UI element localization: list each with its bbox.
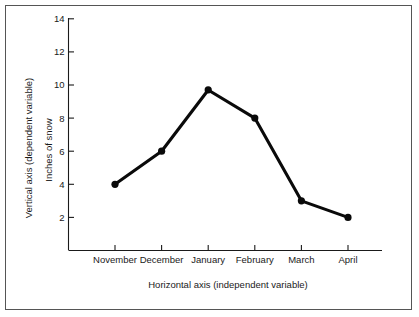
y-tick-label: 14 (54, 13, 65, 24)
data-point-january (205, 86, 212, 93)
figure-container: 2468101214 NovemberDecemberJanuaryFebrua… (0, 0, 419, 317)
line-chart: 2468101214 NovemberDecemberJanuaryFebrua… (0, 0, 419, 317)
data-point-december (158, 148, 165, 155)
data-point-group (111, 86, 351, 221)
y-axis-label-inner: Inches of snow (43, 118, 54, 182)
x-tick-label-february: February (236, 254, 274, 265)
y-tick-label: 6 (59, 146, 64, 157)
y-axis-label-outer: Vertical axis (dependent variable) (23, 78, 34, 218)
y-tick-label: 8 (59, 113, 64, 124)
data-point-march (298, 197, 305, 204)
x-tick-group: NovemberDecemberJanuaryFebruaryMarchApri… (93, 245, 357, 265)
data-point-february (251, 115, 258, 122)
x-axis-label: Horizontal axis (independent variable) (148, 279, 307, 290)
y-tick-label: 12 (54, 46, 65, 57)
x-tick-label-november: November (93, 254, 137, 265)
x-tick-label-january: January (191, 254, 225, 265)
y-tick-label: 10 (54, 79, 65, 90)
data-line (115, 90, 348, 217)
x-tick-label-april: April (338, 254, 357, 265)
y-tick-group: 2468101214 (54, 13, 74, 223)
data-point-april (344, 214, 351, 221)
y-tick-label: 4 (59, 179, 64, 190)
x-tick-label-december: December (140, 254, 184, 265)
axes-group (69, 18, 383, 251)
x-tick-label-march: March (288, 254, 314, 265)
data-point-november (111, 181, 118, 188)
y-tick-label: 2 (59, 212, 64, 223)
